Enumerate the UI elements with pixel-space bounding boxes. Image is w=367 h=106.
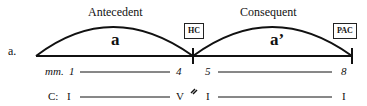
measure-end-1: 4 <box>176 65 182 77</box>
measures-prefix: mm. <box>45 65 64 77</box>
measure-start-2: 5 <box>205 65 211 77</box>
measure-start-1: 1 <box>69 65 75 77</box>
phrase-a: a <box>111 30 120 50</box>
cadence-hc-box: HC <box>184 23 204 39</box>
key-prefix: C: <box>48 90 58 102</box>
harmony-ant-end: V <box>176 90 184 102</box>
harmony-cons-end: I <box>342 90 346 102</box>
figure-label: a. <box>8 44 16 59</box>
phrase-a-prime: a’ <box>270 30 284 50</box>
consequent-title: Consequent <box>240 5 297 20</box>
harmony-ant-start: I <box>67 90 71 102</box>
measure-end-2: 8 <box>341 65 347 77</box>
cadence-pac-box: PAC <box>333 23 357 39</box>
antecedent-title: Antecedent <box>88 5 143 20</box>
harmony-cons-start: I <box>206 90 210 102</box>
